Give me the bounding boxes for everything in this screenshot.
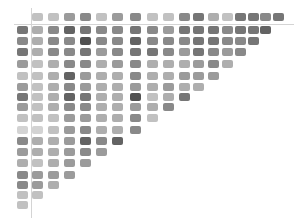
heatmap-cell	[193, 37, 204, 45]
row-label-cell	[17, 171, 28, 179]
row-label-cell	[17, 83, 28, 91]
header-cell	[64, 13, 75, 21]
heatmap-cell	[48, 137, 59, 145]
heatmap-cell	[112, 103, 123, 111]
heatmap-cell	[193, 72, 204, 80]
heatmap-cell	[32, 148, 43, 156]
heatmap-cell	[130, 103, 141, 111]
row-label-cell	[17, 93, 28, 101]
heatmap-cell	[130, 93, 141, 101]
header-cell	[147, 13, 158, 21]
heatmap-cell	[32, 26, 43, 34]
heatmap-cell	[147, 72, 158, 80]
row-label-cell	[17, 148, 28, 156]
heatmap-cell	[80, 93, 91, 101]
heatmap-cell	[48, 48, 59, 56]
heatmap-cell	[222, 60, 233, 68]
heatmap-cell	[32, 137, 43, 145]
heatmap-cell	[163, 48, 174, 56]
heatmap-cell	[64, 83, 75, 91]
row-label-cell	[17, 159, 28, 167]
heatmap-cell	[112, 72, 123, 80]
heatmap-cell	[64, 93, 75, 101]
heatmap-cell	[222, 48, 233, 56]
heatmap-cell	[64, 126, 75, 134]
heatmap-cell	[48, 159, 59, 167]
header-cell	[48, 13, 59, 21]
heatmap-cell	[179, 60, 190, 68]
heatmap-cell	[80, 48, 91, 56]
header-cell	[193, 13, 204, 21]
header-cell	[112, 13, 123, 21]
row-label-cell	[17, 26, 28, 34]
header-cell	[222, 13, 233, 21]
heatmap-cell	[64, 60, 75, 68]
heatmap-cell	[96, 48, 107, 56]
heatmap-cell	[130, 72, 141, 80]
heatmap-cell	[147, 103, 158, 111]
heatmap-cell	[80, 103, 91, 111]
heatmap-cell	[32, 60, 43, 68]
heatmap-cell	[248, 26, 259, 34]
heatmap-cell	[163, 26, 174, 34]
heatmap-cell	[64, 48, 75, 56]
heatmap-cell	[235, 48, 246, 56]
horizontal-divider	[14, 24, 294, 25]
heatmap-cell	[179, 26, 190, 34]
heatmap-cell	[179, 93, 190, 101]
heatmap-cell	[80, 37, 91, 45]
heatmap-cell	[64, 148, 75, 156]
heatmap-cell	[112, 126, 123, 134]
heatmap-cell	[208, 37, 219, 45]
heatmap-cell	[260, 26, 271, 34]
heatmap-cell	[32, 93, 43, 101]
heatmap-cell	[222, 26, 233, 34]
heatmap-cell	[48, 126, 59, 134]
heatmap-cell	[96, 83, 107, 91]
heatmap-cell	[163, 103, 174, 111]
heatmap-cell	[130, 83, 141, 91]
heatmap-cell	[130, 114, 141, 122]
heatmap-cell	[179, 83, 190, 91]
heatmap-cell	[179, 48, 190, 56]
heatmap-cell	[130, 37, 141, 45]
header-cell	[32, 13, 43, 21]
heatmap-cell	[163, 72, 174, 80]
heatmap-cell	[96, 137, 107, 145]
heatmap-cell	[80, 148, 91, 156]
heatmap-cell	[48, 37, 59, 45]
heatmap-cell	[147, 93, 158, 101]
row-label-cell	[17, 191, 28, 199]
heatmap-cell	[208, 72, 219, 80]
row-label-cell	[17, 137, 28, 145]
heatmap-cell	[163, 37, 174, 45]
heatmap-cell	[48, 181, 59, 189]
heatmap-cell	[80, 114, 91, 122]
row-label-cell	[17, 201, 28, 209]
heatmap-cell	[248, 37, 259, 45]
heatmap-cell	[193, 26, 204, 34]
heatmap-cell	[147, 48, 158, 56]
heatmap-cell	[96, 103, 107, 111]
heatmap-cell	[48, 148, 59, 156]
heatmap-cell	[130, 26, 141, 34]
heatmap-cell	[130, 60, 141, 68]
heatmap-cell	[147, 26, 158, 34]
heatmap-cell	[80, 26, 91, 34]
chart-title	[30, 0, 78, 4]
heatmap-cell	[64, 72, 75, 80]
heatmap-cell	[193, 60, 204, 68]
heatmap-cell	[32, 83, 43, 91]
heatmap-cell	[96, 126, 107, 134]
heatmap-cell	[96, 60, 107, 68]
heatmap-cell	[96, 148, 107, 156]
heatmap-cell	[32, 159, 43, 167]
heatmap-cell	[193, 83, 204, 91]
heatmap-cell	[80, 137, 91, 145]
heatmap-cell	[235, 26, 246, 34]
heatmap-cell	[64, 171, 75, 179]
heatmap-cell	[235, 37, 246, 45]
heatmap-cell	[32, 126, 43, 134]
heatmap-cell	[193, 48, 204, 56]
heatmap-cell	[147, 83, 158, 91]
